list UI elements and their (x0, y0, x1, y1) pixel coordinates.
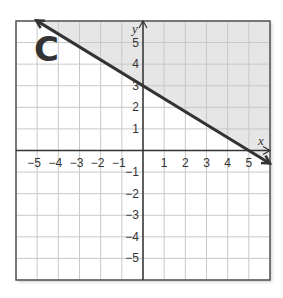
y-tick-label: −2 (125, 187, 139, 201)
y-tick-label: −1 (125, 165, 139, 179)
x-tick-label: −1 (112, 156, 126, 170)
x-tick-label: 4 (224, 156, 231, 170)
x-tick-label: −5 (27, 156, 41, 170)
y-tick-label: 1 (132, 122, 139, 136)
y-tick-label: 5 (132, 36, 139, 50)
x-axis-label: x (257, 133, 264, 148)
y-tick-label: −3 (125, 208, 139, 222)
panel-label: C (34, 32, 59, 66)
y-tick-label: 2 (132, 100, 139, 114)
y-tick-label: −4 (125, 230, 139, 244)
y-tick-label: 4 (132, 57, 139, 71)
x-tick-label: 5 (245, 156, 252, 170)
x-tick-label: 1 (161, 156, 168, 170)
x-tick-label: −3 (70, 156, 84, 170)
y-axis-label: y (130, 21, 138, 36)
y-tick-label: −5 (125, 251, 139, 265)
x-tick-label: 3 (203, 156, 210, 170)
x-tick-label: 2 (182, 156, 189, 170)
x-tick-label: −4 (48, 156, 62, 170)
x-tick-label: −2 (91, 156, 105, 170)
